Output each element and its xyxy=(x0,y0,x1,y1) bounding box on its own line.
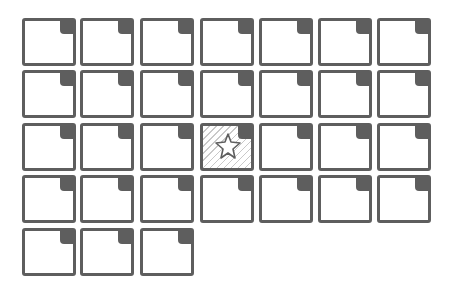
tile-corner-marker xyxy=(178,72,192,86)
tile[interactable] xyxy=(200,70,254,118)
tile[interactable] xyxy=(22,70,76,118)
tile-corner-marker xyxy=(60,72,74,86)
tile[interactable] xyxy=(22,175,76,223)
tile-corner-marker xyxy=(297,72,311,86)
tile-corner-marker xyxy=(118,72,132,86)
tile[interactable] xyxy=(377,175,431,223)
tile-corner-marker xyxy=(60,230,74,244)
tile-corner-marker xyxy=(60,177,74,191)
tile[interactable] xyxy=(377,123,431,171)
tile-selected[interactable] xyxy=(200,123,254,171)
tile[interactable] xyxy=(140,18,194,66)
tile[interactable] xyxy=(140,70,194,118)
tile-corner-marker xyxy=(356,125,370,139)
tile[interactable] xyxy=(318,70,372,118)
tile-corner-marker xyxy=(297,20,311,34)
tile[interactable] xyxy=(200,175,254,223)
tile-corner-marker xyxy=(415,125,429,139)
tile[interactable] xyxy=(259,123,313,171)
tile-corner-marker xyxy=(118,230,132,244)
tile-corner-marker xyxy=(238,72,252,86)
tile-corner-marker xyxy=(297,125,311,139)
tile[interactable] xyxy=(22,18,76,66)
tile[interactable] xyxy=(259,18,313,66)
tile-corner-marker xyxy=(178,125,192,139)
tile-corner-marker xyxy=(415,177,429,191)
tile-corner-marker xyxy=(118,125,132,139)
tile[interactable] xyxy=(377,70,431,118)
tile-corner-marker xyxy=(356,20,370,34)
tile[interactable] xyxy=(80,70,134,118)
tile-corner-marker xyxy=(178,230,192,244)
tile[interactable] xyxy=(140,228,194,276)
star-icon xyxy=(214,132,242,160)
tile-corner-marker xyxy=(118,177,132,191)
tile-corner-marker xyxy=(238,177,252,191)
tile[interactable] xyxy=(80,18,134,66)
tile[interactable] xyxy=(80,228,134,276)
tile-corner-marker xyxy=(178,20,192,34)
tile[interactable] xyxy=(140,175,194,223)
tile-corner-marker xyxy=(415,72,429,86)
tile[interactable] xyxy=(80,175,134,223)
tile-corner-marker xyxy=(178,177,192,191)
tile-corner-marker xyxy=(118,20,132,34)
tile-corner-marker xyxy=(60,20,74,34)
tile[interactable] xyxy=(377,18,431,66)
tile-corner-marker xyxy=(356,177,370,191)
tile[interactable] xyxy=(259,175,313,223)
tile-grid xyxy=(0,0,453,291)
tile[interactable] xyxy=(80,123,134,171)
tile[interactable] xyxy=(22,123,76,171)
tile-corner-marker xyxy=(238,20,252,34)
tile[interactable] xyxy=(259,70,313,118)
tile-corner-marker xyxy=(415,20,429,34)
tile[interactable] xyxy=(200,18,254,66)
tile[interactable] xyxy=(318,18,372,66)
tile-corner-marker xyxy=(60,125,74,139)
tile-corner-marker xyxy=(356,72,370,86)
tile[interactable] xyxy=(22,228,76,276)
tile-corner-marker xyxy=(297,177,311,191)
tile[interactable] xyxy=(140,123,194,171)
tile[interactable] xyxy=(318,175,372,223)
tile[interactable] xyxy=(318,123,372,171)
